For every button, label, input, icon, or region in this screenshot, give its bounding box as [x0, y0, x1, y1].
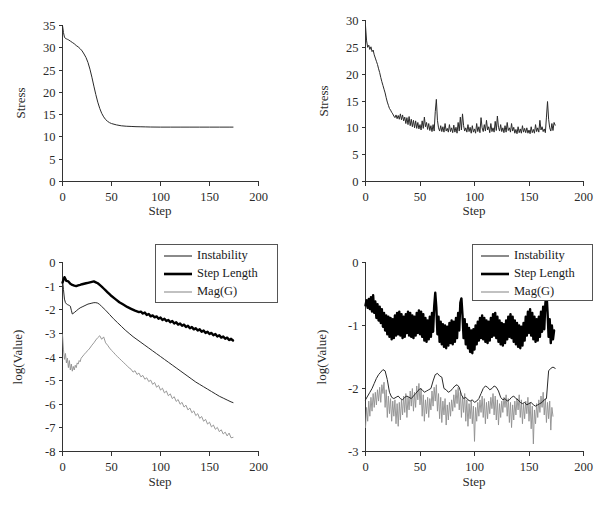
y-tick-label: 25 — [346, 41, 359, 55]
x-tick-label: 200 — [574, 190, 593, 204]
series-line — [366, 291, 555, 353]
legend-bottom-right[interactable]: InstabilityStep LengthMag(G) — [472, 244, 592, 300]
legend-label[interactable]: Instability — [514, 248, 565, 262]
series-group-top-right — [366, 26, 556, 134]
y-tick-label: 0 — [49, 175, 55, 189]
y-tick-label: 25 — [43, 64, 56, 78]
y-tick-label: -1 — [348, 319, 358, 333]
y-tick-group: 0-1-2-3 — [348, 256, 365, 459]
x-tick-group: 050100150200 — [362, 452, 593, 474]
y-axis-title: Stress — [13, 87, 28, 118]
x-tick-label: 100 — [465, 190, 484, 204]
x-tick-label: 0 — [59, 190, 65, 204]
series-group-bottom-right — [366, 291, 556, 443]
figure-container: 05101520253035 050100150200 Step Stress … — [0, 0, 597, 514]
chart-panel-top-right: 051015202530 050100150200 Step Stress — [298, 0, 597, 230]
y-tick-label: 20 — [346, 68, 359, 82]
legend-label[interactable]: Step Length — [197, 266, 259, 280]
x-tick-label: 200 — [249, 190, 268, 204]
series-line — [63, 335, 234, 438]
y-tick-label: 35 — [43, 19, 56, 33]
y-tick-group: 05101520253035 — [43, 19, 63, 189]
x-tick-label: 0 — [362, 190, 368, 204]
x-tick-label: 50 — [414, 460, 427, 474]
chart-panel-bottom-left: 0-1-2-3-4-5-6-7-8 050100150200 Instabili… — [0, 230, 298, 514]
x-tick-label: 50 — [105, 190, 118, 204]
legend-label[interactable]: Step Length — [514, 266, 576, 280]
x-axis-title: Step — [148, 203, 171, 218]
x-tick-label: 0 — [362, 460, 368, 474]
y-tick-label: -5 — [45, 374, 55, 388]
x-axis-title: Step — [148, 474, 171, 489]
chart-panel-bottom-right: 0-1-2-3 050100150200 InstabilityStep Len… — [298, 230, 597, 514]
x-axis-title: Step — [462, 474, 485, 489]
chart-svg-bottom-left: 0-1-2-3-4-5-6-7-8 050100150200 Instabili… — [0, 230, 298, 514]
chart-panel-top-left: 05101520253035 050100150200 Step Stress — [0, 0, 298, 230]
x-tick-label: 100 — [151, 190, 170, 204]
x-tick-label: 200 — [574, 460, 593, 474]
series-line — [366, 26, 556, 134]
legend-bottom-left[interactable]: InstabilityStep LengthMag(G) — [155, 244, 277, 302]
x-tick-label: 150 — [200, 460, 219, 474]
y-tick-label: 5 — [352, 148, 358, 162]
x-tick-label: 150 — [520, 460, 539, 474]
y-tick-label: -6 — [45, 398, 55, 412]
x-tick-label: 50 — [105, 460, 118, 474]
x-tick-label: 0 — [59, 460, 65, 474]
y-tick-label: -7 — [45, 421, 55, 435]
legend-label[interactable]: Instability — [197, 248, 248, 262]
y-tick-label: -2 — [45, 303, 55, 317]
series-group-top-left — [63, 26, 234, 128]
x-axis-title: Step — [462, 203, 485, 218]
legend-label[interactable]: Mag(G) — [197, 284, 237, 298]
y-tick-label: -4 — [45, 351, 56, 365]
y-tick-label: -3 — [45, 327, 55, 341]
axes-top-right: 051015202530 050100150200 — [346, 14, 593, 204]
y-tick-label: 10 — [346, 121, 359, 135]
y-tick-group: 051015202530 — [346, 14, 366, 189]
x-tick-group: 050100150200 — [362, 182, 593, 204]
y-tick-label: -3 — [348, 445, 358, 459]
y-axis-title: log(Value) — [314, 330, 329, 385]
y-tick-label: -8 — [45, 445, 55, 459]
y-axis-title: Stress — [316, 85, 331, 116]
x-tick-label: 200 — [249, 460, 268, 474]
y-tick-label: -1 — [45, 280, 55, 294]
y-tick-label: 0 — [49, 256, 55, 270]
series-line — [63, 26, 234, 128]
y-tick-label: 10 — [43, 130, 56, 144]
y-tick-label: 0 — [352, 175, 358, 189]
chart-svg-top-left: 05101520253035 050100150200 Step Stress — [0, 0, 298, 230]
axes-top-left: 05101520253035 050100150200 — [43, 19, 268, 204]
y-tick-label: 15 — [43, 108, 56, 122]
y-tick-label: 30 — [346, 14, 359, 28]
legend-label[interactable]: Mag(G) — [514, 284, 554, 298]
y-axis-title: log(Value) — [10, 330, 25, 385]
x-tick-label: 150 — [520, 190, 539, 204]
x-tick-label: 50 — [414, 190, 427, 204]
x-tick-group: 050100150200 — [59, 452, 268, 474]
chart-svg-bottom-right: 0-1-2-3 050100150200 InstabilityStep Len… — [298, 230, 597, 514]
x-tick-label: 100 — [465, 460, 484, 474]
y-tick-label: 30 — [43, 41, 56, 55]
y-tick-group: 0-1-2-3-4-5-6-7-8 — [45, 256, 62, 459]
y-tick-label: -2 — [348, 382, 358, 396]
x-tick-label: 100 — [151, 460, 170, 474]
series-line — [366, 382, 553, 444]
y-tick-label: 5 — [49, 153, 55, 167]
x-tick-group: 050100150200 — [59, 182, 268, 204]
y-tick-label: 0 — [352, 256, 358, 270]
chart-svg-top-right: 051015202530 050100150200 Step Stress — [298, 0, 597, 230]
y-tick-label: 20 — [43, 86, 56, 100]
y-tick-label: 15 — [346, 95, 359, 109]
x-tick-label: 150 — [200, 190, 219, 204]
